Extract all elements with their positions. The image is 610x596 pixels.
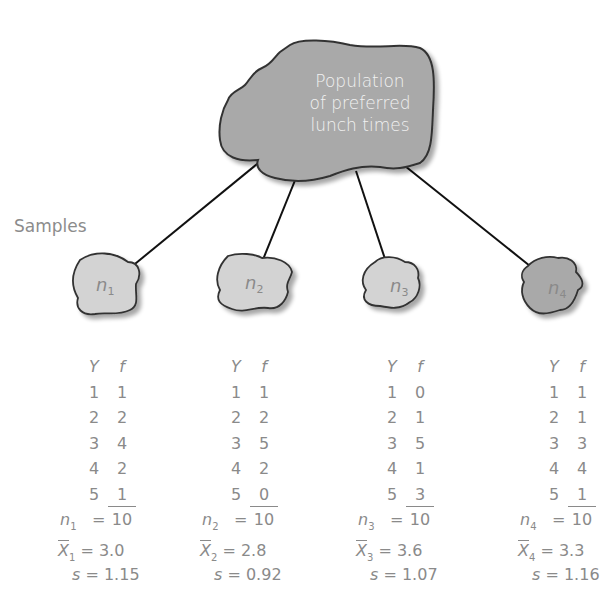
table-row: 21 [540,405,610,431]
table-row: 50 [222,482,342,508]
table-header: Y f [540,354,610,380]
table-row: 21 [378,405,498,431]
table-row: 41 [378,456,498,482]
population-label: Population of preferred lunch times [285,70,435,136]
table-row: 22 [222,405,342,431]
connector-n1 [130,160,262,268]
connector-n4 [405,166,530,266]
sample-sd: s = 1.07 [370,563,498,587]
sample-sd: s = 1.15 [72,563,200,587]
table-row: 22 [80,405,200,431]
sample-size: n1 = 10 [60,507,200,533]
table-row: 10 [378,380,498,406]
sample-mean: X1 = 3.0 [58,539,200,563]
table-row: 44 [540,456,610,482]
sample-size: n2 = 10 [202,507,342,533]
mean-value: 3.0 [99,541,124,560]
sample-mean: X4 = 3.3 [518,539,610,563]
sd-value: 1.15 [104,565,140,584]
population-label-line-3: lunch times [285,114,435,136]
table-row: 51 [80,482,200,508]
table-row: 11 [222,380,342,406]
sample-label-n3: n3 [390,275,408,299]
sample-label-n2: n2 [245,272,263,296]
sample-sd: s = 1.16 [532,563,610,587]
n-total: 10 [108,507,136,533]
header-f: f [108,354,136,380]
table-row: 35 [222,431,342,457]
sample-column-n1: Y f 11 22 34 42 51 n1 = 10 X1 = 3.0 s = … [80,354,200,587]
sample-size: n3 = 10 [358,507,498,533]
sample-column-n4: Y f 11 21 33 44 51 n4 = 10 X4 = 3.3 s = … [540,354,610,587]
samples-label: Samples [14,216,87,236]
sample-label-n1: n1 [96,274,114,298]
table-row: 11 [540,380,610,406]
population-label-line-2: of preferred [285,92,435,114]
population-label-line-1: Population [285,70,435,92]
sample-column-n3: Y f 10 21 35 41 53 n3 = 10 X3 = 3.6 s = … [378,354,498,587]
sample-mean: X3 = 3.6 [356,539,498,563]
table-header: Y f [222,354,342,380]
table-row: 35 [378,431,498,457]
table-row: 42 [222,456,342,482]
sample-column-n2: Y f 11 22 35 42 50 n2 = 10 X2 = 2.8 s = … [222,354,342,587]
sample-mean: X2 = 2.8 [200,539,342,563]
connector-n2 [262,168,300,262]
connector-n3 [356,171,386,262]
table-row: 42 [80,456,200,482]
sample-sd: s = 0.92 [214,563,342,587]
sample-size: n4 = 10 [520,507,610,533]
table-header: Y f [378,354,498,380]
table-row: 34 [80,431,200,457]
table-row: 51 [540,482,610,508]
table-header: Y f [80,354,200,380]
header-y: Y [80,354,108,380]
table-row: 33 [540,431,610,457]
table-row: 53 [378,482,498,508]
table-row: 11 [80,380,200,406]
sample-label-n4: n4 [548,277,566,301]
